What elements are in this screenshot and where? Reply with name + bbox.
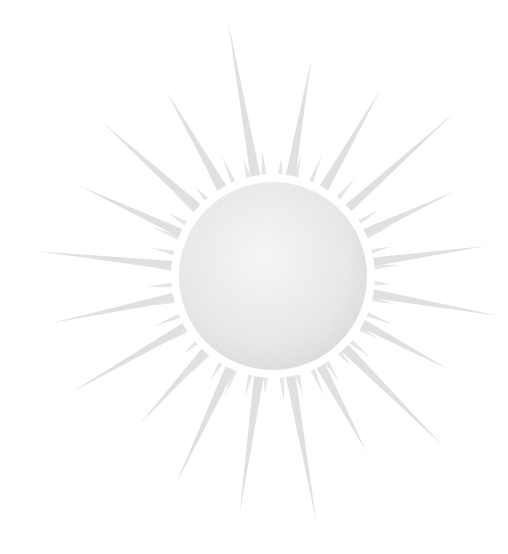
sun-icon (0, 0, 508, 554)
sun-ray (357, 318, 449, 370)
sun-ray (176, 363, 236, 485)
sun-ray (139, 346, 211, 425)
sun-short-ray (369, 247, 390, 255)
sun-short-ray (146, 282, 173, 287)
sun-short-ray (152, 248, 176, 256)
sun-short-ray (373, 280, 391, 285)
sun-short-ray (264, 376, 269, 394)
sun-ray (166, 90, 229, 194)
sun-short-ray (153, 313, 182, 327)
sun-ray (315, 360, 367, 452)
sun-ray (69, 321, 190, 393)
sun-ray (102, 122, 203, 214)
sun-ray (369, 246, 485, 267)
sun-short-ray (245, 373, 253, 397)
sun-short-ray (277, 158, 282, 176)
sun-illustration (0, 0, 508, 554)
sun-ray (318, 90, 381, 194)
sun-short-ray (308, 155, 322, 184)
sun-ray (285, 59, 311, 180)
sun-short-ray (222, 156, 236, 185)
sun-ray (228, 20, 261, 180)
sun-short-ray (279, 375, 284, 402)
sun-ray (285, 372, 316, 523)
sun-short-ray (262, 149, 267, 176)
sun-short-ray (372, 265, 399, 270)
sun-ray (53, 292, 178, 323)
sun-ray (240, 372, 265, 513)
sun-ray (39, 251, 176, 270)
sun-disc-texture (179, 182, 367, 370)
sun-ray (78, 185, 186, 239)
